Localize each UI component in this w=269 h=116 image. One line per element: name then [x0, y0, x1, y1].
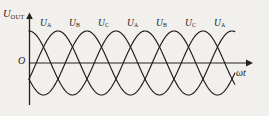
- wave-label-symbol: U: [127, 18, 134, 28]
- wave-label-subscript: A: [221, 22, 225, 28]
- wave-label-symbol: U: [69, 18, 76, 28]
- wave-label-subscript: B: [163, 22, 167, 28]
- x-axis-arrow-icon: [246, 60, 253, 67]
- y-axis-label-symbol: U: [3, 8, 11, 19]
- wave-label-6: UC: [185, 19, 196, 29]
- x-axis-label: ωt: [236, 68, 246, 78]
- wave-label-subscript: A: [134, 22, 138, 28]
- wave-label-1: UA: [40, 19, 51, 29]
- wave-label-subscript: C: [192, 22, 196, 28]
- wave-label-subscript: C: [105, 22, 109, 28]
- y-axis-label-subscript: OUT: [11, 13, 25, 20]
- wave-label-3: UC: [98, 19, 109, 29]
- wave-label-symbol: U: [156, 18, 163, 28]
- x-axis: [29, 60, 253, 67]
- wave-label-symbol: U: [40, 18, 47, 28]
- wave-label-5: UB: [156, 19, 167, 29]
- origin-label: O: [18, 56, 25, 66]
- wave-label-symbol: U: [98, 18, 105, 28]
- wave-label-subscript: B: [76, 22, 80, 28]
- wave-label-subscript: A: [47, 22, 51, 28]
- waveform-figure: UOUT O ωt UAUBUCUAUBUCUA: [0, 0, 269, 116]
- y-axis: [26, 13, 33, 106]
- y-axis-arrow-icon: [26, 13, 33, 20]
- y-axis-label: UOUT: [3, 9, 24, 20]
- wave-label-2: UB: [69, 19, 80, 29]
- wave-label-symbol: U: [214, 18, 221, 28]
- wave-label-4: UA: [127, 19, 138, 29]
- wave-label-7: UA: [214, 19, 225, 29]
- wave-label-symbol: U: [185, 18, 192, 28]
